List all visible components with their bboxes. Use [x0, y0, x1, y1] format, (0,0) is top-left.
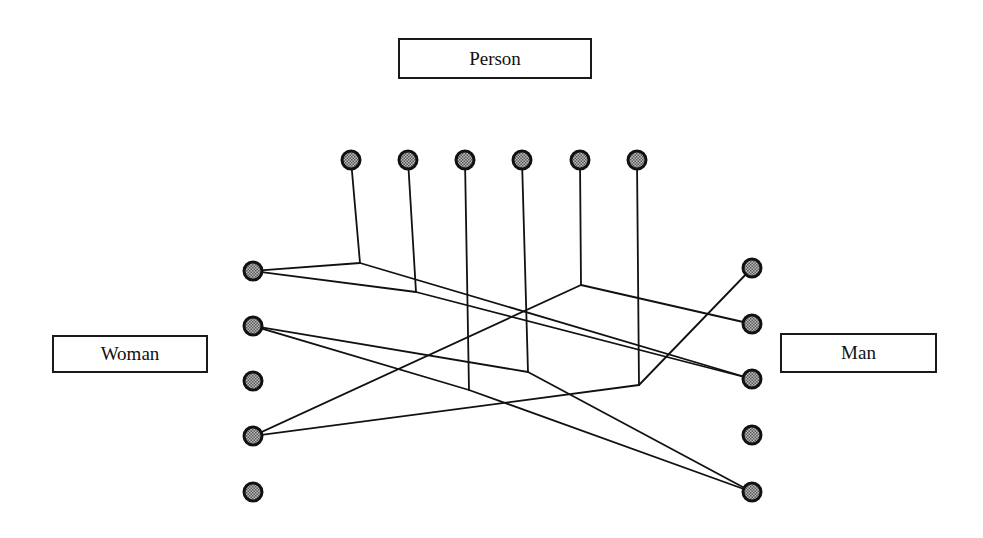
person-node: [513, 151, 531, 169]
woman-node: [244, 483, 262, 501]
person-node: [399, 151, 417, 169]
person-node: [342, 151, 360, 169]
relation-diagram: [0, 0, 983, 538]
person-node: [456, 151, 474, 169]
relation-edge: [253, 160, 752, 492]
nodes-layer: [244, 151, 761, 501]
edges-layer: [253, 160, 752, 492]
man-node: [743, 315, 761, 333]
man-node: [743, 370, 761, 388]
person-node: [571, 151, 589, 169]
woman-node: [244, 317, 262, 335]
relation-edge: [253, 160, 752, 492]
man-node: [743, 259, 761, 277]
person-node: [628, 151, 646, 169]
woman-node: [244, 262, 262, 280]
woman-node: [244, 427, 262, 445]
woman-node: [244, 372, 262, 390]
relation-edge: [253, 160, 752, 436]
man-node: [743, 426, 761, 444]
man-node: [743, 483, 761, 501]
relation-edge: [253, 160, 752, 436]
